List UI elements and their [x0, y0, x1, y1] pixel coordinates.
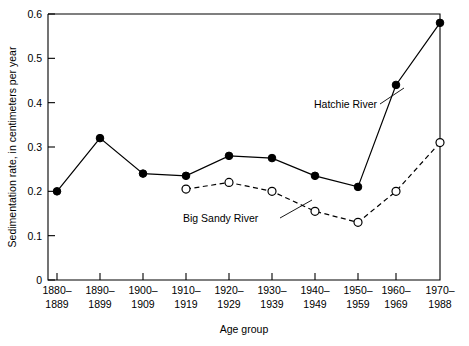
- series-line-hatchie: [57, 23, 440, 191]
- x-tick-label: 1880–: [42, 284, 71, 296]
- data-point-bigsandy: [354, 218, 362, 226]
- x-tick-marks: [57, 273, 396, 280]
- data-point-hatchie: [53, 188, 61, 196]
- sedimentation-rate-line-chart: 00.10.20.30.40.50.6 1880–18891890–189919…: [0, 0, 469, 346]
- x-tick-label: 1988: [428, 298, 452, 310]
- x-tick-label: 1970–: [425, 284, 454, 296]
- x-tick-label: 1960–: [381, 284, 410, 296]
- data-point-bigsandy: [182, 185, 190, 193]
- data-point-hatchie: [354, 183, 362, 191]
- series-layer: [53, 19, 444, 226]
- data-point-bigsandy: [225, 178, 233, 186]
- y-tick-label: 0.6: [27, 8, 42, 20]
- x-tick-label: 1890–: [85, 284, 114, 296]
- x-tick-label: 1939: [260, 298, 284, 310]
- y-tick-label: 0.2: [27, 185, 42, 197]
- data-point-bigsandy: [268, 187, 276, 195]
- x-tick-label: 1940–: [300, 284, 329, 296]
- data-point-hatchie: [139, 170, 147, 178]
- x-tick-label: 1959: [346, 298, 370, 310]
- annotation-bigsandy: Big Sandy River: [183, 200, 312, 224]
- data-point-bigsandy: [436, 139, 444, 147]
- y-tick-label: 0.5: [27, 52, 42, 64]
- data-point-bigsandy: [392, 187, 400, 195]
- data-point-hatchie: [436, 19, 444, 27]
- x-tick-label: 1909: [131, 298, 155, 310]
- y-tick-label: 0.1: [27, 230, 42, 242]
- axis-frame-lines: [48, 14, 440, 280]
- data-point-hatchie: [182, 172, 190, 180]
- y-tick-label: 0.3: [27, 141, 42, 153]
- x-tick-label: 1919: [174, 298, 198, 310]
- y-tick-labels: 00.10.20.30.40.50.6: [27, 8, 42, 286]
- x-tick-label: 1900–: [128, 284, 157, 296]
- data-point-hatchie: [311, 172, 319, 180]
- x-tick-label: 1930–: [257, 284, 286, 296]
- x-tick-label: 1969: [384, 298, 408, 310]
- data-point-bigsandy: [311, 207, 319, 215]
- y-tick-label: 0.4: [27, 97, 42, 109]
- data-point-hatchie: [392, 81, 400, 89]
- x-tick-label: 1929: [217, 298, 241, 310]
- x-tick-label: 1920–: [214, 284, 243, 296]
- x-tick-label: 1949: [303, 298, 327, 310]
- plot-frame: [48, 14, 440, 280]
- data-point-hatchie: [225, 152, 233, 160]
- x-tick-label: 1950–: [343, 284, 372, 296]
- x-tick-label: 1889: [45, 298, 69, 310]
- y-tick-label: 0: [36, 274, 42, 286]
- annotation-label-bigsandy: Big Sandy River: [183, 212, 259, 224]
- chart-figure: 00.10.20.30.40.50.6 1880–18891890–189919…: [0, 0, 469, 346]
- x-tick-labels: 1880–18891890–18991900–19091910–19191920…: [42, 284, 454, 310]
- y-tick-marks: [48, 14, 55, 280]
- y-axis-title: Sedimentation rate, in centimeters per y…: [6, 46, 18, 247]
- x-tick-label: 1910–: [171, 284, 200, 296]
- annotation-label-hatchie: Hatchie River: [314, 98, 378, 110]
- x-axis-title: Age group: [220, 323, 269, 335]
- data-point-hatchie: [96, 134, 104, 142]
- data-point-hatchie: [268, 154, 276, 162]
- annotation-leader-hatchie: [380, 88, 404, 104]
- x-tick-label: 1899: [88, 298, 112, 310]
